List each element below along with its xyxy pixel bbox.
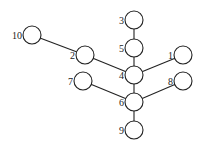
node-circle: [76, 46, 94, 64]
node-label: 2: [70, 50, 75, 61]
node-7: 7: [68, 72, 92, 90]
node-label: 5: [119, 43, 124, 54]
node-9: 9: [119, 121, 143, 139]
node-label: 3: [119, 15, 124, 26]
node-circle: [125, 39, 143, 57]
node-2: 2: [70, 46, 94, 64]
node-label: 1: [168, 50, 173, 61]
node-8: 8: [168, 72, 192, 90]
node-circle: [23, 26, 41, 44]
node-label: 10: [12, 30, 22, 41]
node-label: 8: [168, 76, 173, 87]
node-label: 7: [68, 76, 73, 87]
node-circle: [125, 121, 143, 139]
tree-diagram: 12345678910: [0, 0, 202, 141]
node-circle: [174, 46, 192, 64]
node-circle: [125, 93, 143, 111]
node-label: 4: [119, 70, 124, 81]
node-circle: [74, 72, 92, 90]
node-label: 6: [119, 97, 124, 108]
nodes: 12345678910: [12, 11, 192, 139]
node-label: 9: [119, 125, 124, 136]
node-10: 10: [12, 26, 41, 44]
node-circle: [125, 66, 143, 84]
edges: [32, 20, 183, 130]
node-circle: [174, 72, 192, 90]
node-6: 6: [119, 93, 143, 111]
node-circle: [125, 11, 143, 29]
node-4: 4: [119, 66, 143, 84]
node-5: 5: [119, 39, 143, 57]
node-3: 3: [119, 11, 143, 29]
node-1: 1: [168, 46, 192, 64]
